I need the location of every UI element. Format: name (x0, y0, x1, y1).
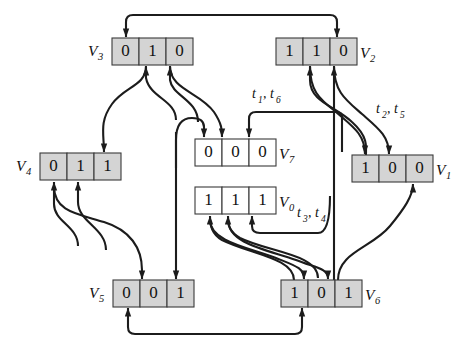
v0-bit-2: 1 (231, 190, 240, 209)
transition-label-t2-t5: t 2 , t 5 (376, 101, 405, 120)
t25-comma: , (387, 101, 391, 116)
v5-label-subscript: 5 (99, 293, 104, 304)
v5-bit-2: 0 (149, 283, 158, 302)
edge-top-loop (126, 15, 337, 37)
node-v3[interactable]: 0 1 0 V 3 (88, 38, 193, 65)
t2-base: t (376, 101, 381, 116)
transition-label-t3-t4: t 3 , t 4 (297, 205, 326, 224)
v6-bit-1: 1 (290, 283, 299, 302)
node-v4[interactable]: 0 1 1 V 4 (16, 153, 121, 180)
v2-label-subscript: 2 (370, 53, 376, 64)
v1-bit-2: 0 (388, 158, 397, 177)
edge-bottom-loop (128, 308, 302, 334)
t5-base: t (394, 101, 399, 116)
v4-bit-1: 0 (49, 156, 58, 175)
v2-bit-1: 1 (285, 41, 294, 60)
node-v2[interactable]: 1 1 0 V 2 (276, 38, 376, 65)
v0-label-subscript: 0 (289, 202, 295, 213)
v7-label-subscript: 7 (289, 154, 295, 165)
node-v6[interactable]: 1 0 1 V 6 (281, 280, 381, 307)
v0-bit-3: 1 (258, 190, 267, 209)
v1-label-subscript: 1 (446, 170, 451, 181)
v4-label-subscript: 4 (26, 166, 32, 177)
edge-v3-to-v4 (103, 66, 146, 152)
node-v5[interactable]: 0 0 1 V 5 (89, 280, 194, 307)
v0-bit-1: 1 (204, 190, 213, 209)
t6-base: t (270, 86, 275, 101)
v2-bit-2: 1 (312, 41, 321, 60)
node-v0[interactable]: 1 1 1 V 0 (195, 187, 295, 214)
edge-into-v1-bit3 (338, 184, 413, 280)
v7-bit-1: 0 (204, 142, 213, 161)
v3-label-subscript: 3 (97, 51, 103, 62)
v6-bit-3: 1 (344, 283, 353, 302)
v2-bit-3: 0 (339, 41, 348, 60)
t4-base: t (315, 205, 320, 220)
v3-bit-1: 0 (121, 41, 130, 60)
t4-sub: 4 (321, 214, 326, 224)
v5-bit-3: 1 (176, 283, 185, 302)
transition-label-t1-t6: t 1 , t 6 (252, 86, 281, 105)
t5-sub: 5 (400, 110, 405, 120)
v6-bit-2: 0 (317, 283, 326, 302)
v4-bit-2: 1 (76, 156, 85, 175)
v1-bit-1: 1 (361, 158, 370, 177)
t6-sub: 6 (276, 95, 281, 105)
v6-label-subscript: 6 (375, 295, 381, 306)
v3-bit-3: 0 (175, 41, 184, 60)
t16-comma: , (263, 86, 267, 101)
v7-bit-2: 0 (231, 142, 240, 161)
node-v1[interactable]: 1 0 0 V 1 (352, 155, 451, 182)
state-transition-diagram: 0 1 0 V 3 1 1 0 V 2 0 0 0 V 7 (0, 0, 461, 349)
node-v7[interactable]: 0 0 0 V 7 (195, 139, 295, 166)
figure-canvas: 0 1 0 V 3 1 1 0 V 2 0 0 0 V 7 (0, 0, 461, 349)
v4-bit-3: 1 (103, 156, 112, 175)
v3-bit-2: 1 (148, 41, 157, 60)
v1-bit-3: 0 (415, 158, 424, 177)
t3-base: t (297, 205, 302, 220)
edge-into-v6-bit3 (228, 220, 328, 279)
t1-base: t (252, 86, 257, 101)
v7-bit-3: 0 (258, 142, 267, 161)
v5-bit-1: 0 (122, 283, 131, 302)
t34-comma: , (308, 205, 312, 220)
